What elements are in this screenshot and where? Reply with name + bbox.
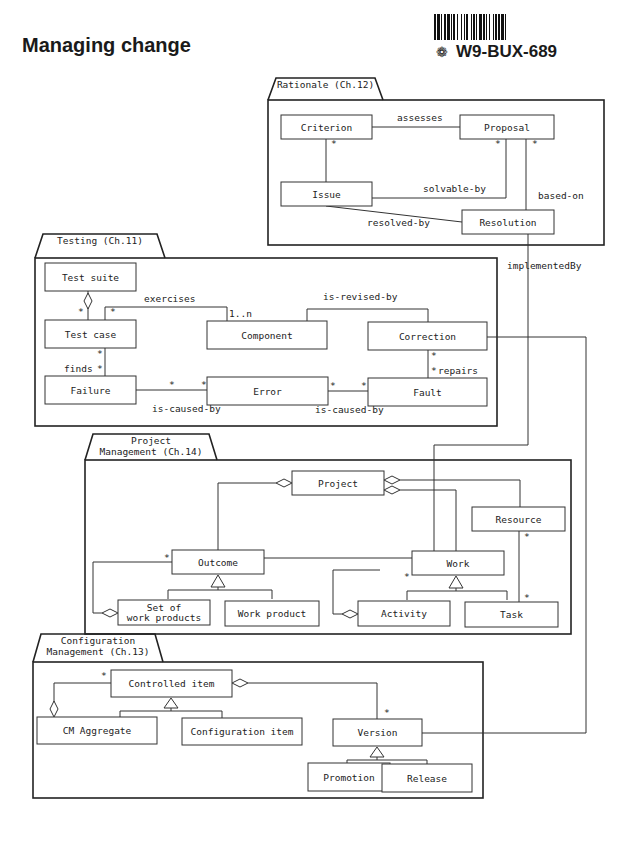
generalization-triangle-icon [211,575,225,587]
class-label: Resolution [479,217,536,228]
class-promotion[interactable]: Promotion [308,763,390,791]
aggregation-diamond-icon [276,479,292,487]
class-failure[interactable]: Failure [45,376,136,404]
class-label: Work [447,558,470,569]
association-exercises [105,307,227,321]
class-error[interactable]: Error [207,377,328,405]
class-label: Release [407,773,447,784]
association-label: is-revised-by [323,291,398,302]
package-label: Rationale (Ch.12) [277,79,374,90]
multiplicity: * [384,707,390,718]
class-label: CM Aggregate [63,725,132,736]
class-resolution[interactable]: Resolution [462,210,554,234]
class-label: Task [500,609,523,620]
uml-diagram: Rationale (Ch.12)Testing (Ch.11)ProjectM… [0,0,622,844]
class-project[interactable]: Project [292,471,384,495]
multiplicity: * [431,350,437,361]
class-label: Test case [65,329,117,340]
class-proposal[interactable]: Proposal [460,115,554,139]
association-project-work [400,490,456,551]
class-label: Test suite [62,272,119,283]
class-test-case[interactable]: Test case [45,320,136,348]
class-label: Controlled item [129,678,215,689]
aggregation-diamond-icon [84,293,92,309]
multiplicity: * [330,380,336,391]
multiplicity: * [361,380,367,391]
class-resource[interactable]: Resource [472,507,565,531]
multiplicity: * [97,348,103,359]
multiplicity: * [101,670,107,681]
class-label: Error [253,386,282,397]
multiplicity: * [524,592,530,603]
class-work[interactable]: Work [412,551,504,575]
class-label: Proposal [484,122,530,133]
class-label: work products [127,612,201,623]
aggregation-diamond-icon [232,679,248,687]
class-fault[interactable]: Fault [368,378,487,406]
class-task[interactable]: Task [465,602,558,627]
multiplicity: * [97,363,103,374]
class-controlled-item[interactable]: Controlled item [111,670,232,697]
class-test-suite[interactable]: Test suite [45,263,136,291]
association-controlled-version [248,683,377,719]
multiplicity: * [404,571,410,582]
association-project-resource [400,480,520,507]
package-label: Project [131,435,171,446]
multiplicity: * [431,365,437,376]
aggregation-diamond-icon [50,701,58,717]
class-set-of-work-products[interactable]: Set ofwork products [118,600,210,625]
association-label: based-on [538,190,584,201]
class-work-product[interactable]: Work product [225,601,319,626]
class-label: Work product [238,608,307,619]
class-label: Criterion [301,122,352,133]
multiplicity: * [169,379,175,390]
association-label: is-caused-by [315,404,384,415]
class-criterion[interactable]: Criterion [281,115,372,139]
class-version[interactable]: Version [333,719,422,746]
class-activity[interactable]: Activity [358,601,450,626]
class-label: Configuration item [191,726,294,737]
class-label: Component [241,330,292,341]
multiplicity: * [331,138,337,149]
multiplicity: * [532,138,538,149]
association-label: is-caused-by [152,403,221,414]
class-correction[interactable]: Correction [368,322,487,350]
class-release[interactable]: Release [382,764,472,792]
association-is-revised-by [307,309,428,322]
class-label: Failure [70,385,110,396]
class-label: Set of [147,602,181,613]
aggregation-diamond-icon [342,610,358,618]
class-outcome[interactable]: Outcome [172,550,264,574]
class-configuration-item[interactable]: Configuration item [182,718,302,745]
package-label: Testing (Ch.11) [57,235,143,246]
association-label: implementedBy [507,260,582,271]
association-label: finds [64,363,93,374]
association-label: solvable-by [423,183,486,194]
association-label: repairs [438,365,478,376]
class-label: Resource [496,514,542,525]
class-issue[interactable]: Issue [281,182,372,206]
multiplicity: * [495,138,501,149]
class-cm-aggregate[interactable]: CM Aggregate [37,717,157,744]
multiplicity: 1..n [229,308,252,319]
association-label: assesses [397,112,443,123]
multiplicity: * [78,306,84,317]
aggregation-diamond-icon [384,486,400,494]
class-label: Issue [312,189,341,200]
generalization-triangle-icon [370,747,384,757]
multiplicity: * [164,552,170,563]
multiplicity: * [110,306,116,317]
class-label: Version [357,727,397,738]
package-label: Configuration [61,635,135,646]
association-controlled-cm-aggregation [54,683,111,702]
multiplicity: * [201,379,207,390]
class-label: Promotion [323,772,374,783]
aggregation-diamond-icon [384,476,400,484]
class-label: Outcome [198,557,238,568]
association-label: resolved-by [367,217,430,228]
package-label: Management (Ch.13) [47,646,150,657]
generalization-triangle-icon [449,576,463,588]
class-component[interactable]: Component [207,321,327,349]
class-label: Fault [413,387,442,398]
multiplicity: * [524,531,530,542]
